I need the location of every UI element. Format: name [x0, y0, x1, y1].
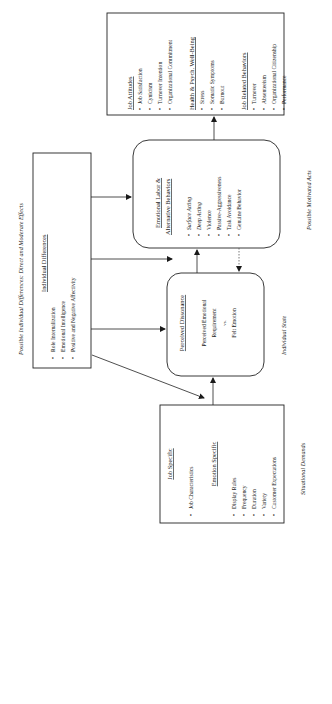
list-item: Organizational Commitment	[167, 39, 173, 104]
caption-individual-state: Individual State	[280, 315, 287, 356]
svg-text:•: •	[261, 514, 267, 516]
svg-text:•: •	[70, 357, 76, 359]
svg-text:•: •	[188, 514, 194, 516]
list-item: Variety	[261, 493, 267, 509]
dissonance-line4: Felt Emotion	[231, 308, 237, 338]
svg-text:•: •	[147, 108, 153, 110]
list-item: Role Internalization	[50, 307, 56, 352]
list-item: Surface Acting	[186, 197, 192, 230]
emotional-labor-content: Emotional Labor & Alternative Behaviors …	[154, 177, 242, 236]
dissonance-title: Perceived Dissonance	[178, 295, 185, 351]
outcomes-content: Job Attitudes • Job Satisfaction • Cynic…	[126, 36, 287, 110]
svg-text:•: •	[236, 234, 242, 236]
svg-text:•: •	[209, 108, 215, 110]
svg-text:•: •	[137, 108, 143, 110]
list-item: Customer Expectations	[271, 457, 277, 509]
caption-situational-demands: Situational Demands	[299, 442, 306, 495]
list-item: Stress	[199, 91, 205, 104]
list-item: Genuine Behavior	[236, 189, 242, 230]
list-item: Display Rules	[231, 477, 237, 509]
svg-text:•: •	[241, 514, 247, 516]
list-item: Performance	[281, 75, 287, 104]
job-attitudes-title: Job Attitudes	[126, 76, 133, 110]
svg-text:•: •	[251, 514, 257, 516]
list-item: Turnover	[251, 83, 257, 104]
svg-text:•: •	[231, 514, 237, 516]
list-item: Burnout	[219, 85, 225, 104]
outcomes-box	[107, 13, 284, 115]
list-item: Cynicism	[147, 82, 153, 104]
list-item: Deep Acting	[196, 202, 202, 231]
list-item: Emotional Intelligence	[60, 300, 66, 352]
svg-text:•: •	[157, 108, 163, 110]
list-item: Turnover Intention	[157, 62, 163, 104]
caption-individual-differences-effects: Possible Individual Differences: Direct …	[17, 203, 24, 356]
svg-text:•: •	[167, 108, 173, 110]
list-item: Task Avoidance	[226, 194, 232, 230]
list-item: Positive and Negative Affectivity	[70, 277, 76, 352]
arrow-id-to-situational-link	[92, 355, 204, 398]
list-item: Job Satisfaction	[137, 68, 143, 104]
svg-text:•: •	[226, 234, 232, 236]
situational-content: Job Specific • Job Characteristics Emoti…	[166, 442, 277, 516]
list-item: Absenteeism	[261, 74, 267, 104]
individual-differences-title: Individual Differences	[40, 234, 47, 292]
svg-text:•: •	[50, 357, 56, 359]
emotion-specific-title: Emotion Specific	[210, 442, 217, 487]
list-item: Frequency	[241, 485, 247, 509]
svg-text:•: •	[271, 514, 277, 516]
list-item: Violence	[206, 210, 212, 230]
svg-text:•: •	[60, 357, 66, 359]
diagram-canvas: Possible Individual Differences: Direct …	[0, 0, 332, 704]
svg-text:•: •	[186, 234, 192, 236]
individual-differences-list: • Role Internalization • Emotional Intel…	[50, 277, 76, 359]
svg-text:•: •	[251, 108, 257, 110]
svg-text:•: •	[216, 234, 222, 236]
job-specific-title: Job Specific	[166, 448, 173, 480]
list-item: Passive-Aggressiveness	[216, 177, 222, 230]
list-item: Duration	[251, 489, 257, 509]
list-item: Job Characteristics	[188, 467, 194, 509]
svg-text:•: •	[219, 108, 225, 110]
emotional-labor-title-line1: Emotional Labor &	[154, 178, 161, 228]
svg-text:•: •	[271, 108, 277, 110]
svg-text:•: •	[261, 108, 267, 110]
job-behaviors-title: Job Related Behaviors	[240, 52, 247, 110]
svg-text:•: •	[199, 108, 205, 110]
health-title: Health & Psych. Well-Being	[188, 36, 195, 110]
caption-motivated-acts: Possible Motivated Acts	[305, 170, 312, 231]
dissonance-line1: Perceived Emotional	[201, 299, 207, 346]
dissonance-line2: Requirement	[211, 308, 217, 337]
dissonance-content: Perceived Dissonance Perceived Emotional…	[178, 295, 237, 351]
svg-text:•: •	[196, 234, 202, 236]
svg-text:•: •	[206, 234, 212, 236]
svg-text:•: •	[281, 108, 287, 110]
emotional-labor-title-line2: Alternative Behaviors	[164, 178, 171, 235]
dissonance-line3: vs.	[222, 320, 227, 326]
list-item: Somatic Symptoms	[209, 60, 215, 104]
list-item: Organizational Citizenship	[271, 44, 277, 104]
